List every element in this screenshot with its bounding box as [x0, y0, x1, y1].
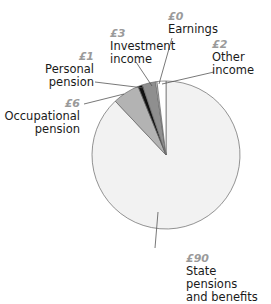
leader-other [162, 72, 214, 84]
name-earnings: Earnings [168, 23, 218, 36]
name-investment-2: income [110, 53, 175, 66]
label-personal: £1 Personal pension [38, 50, 94, 89]
pie-slices [92, 81, 240, 229]
name-occupational-2: pension [4, 123, 80, 136]
name-personal-2: pension [38, 76, 94, 89]
label-earnings: £0 Earnings [168, 10, 218, 36]
name-state-2: and benefits [186, 291, 271, 304]
label-other: £2 Other income [212, 38, 254, 77]
leader-personal [95, 82, 144, 88]
name-state-1: State pensions [186, 265, 271, 291]
label-occupational: £6 Occupational pension [4, 97, 80, 136]
name-other-2: income [212, 64, 254, 77]
label-investment: £3 Investment income [110, 27, 175, 66]
label-state: £90 State pensions and benefits [186, 252, 271, 304]
